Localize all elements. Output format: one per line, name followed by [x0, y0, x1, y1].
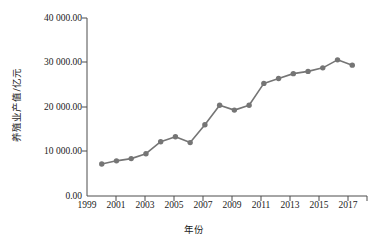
- data-point: [143, 151, 148, 156]
- data-point: [276, 76, 281, 81]
- data-point: [350, 62, 355, 67]
- data-point: [232, 107, 237, 112]
- data-point: [217, 103, 222, 108]
- data-point: [305, 69, 310, 74]
- chart-figure: 养殖业产值/亿元 40 000.00 30 000.00 20 000.00 1…: [0, 0, 387, 252]
- data-point: [335, 57, 340, 62]
- data-point: [158, 139, 163, 144]
- data-point: [246, 103, 251, 108]
- x-axis-ticks: [116, 196, 367, 201]
- plot-area: [0, 0, 387, 252]
- data-markers-series-1: [99, 57, 355, 167]
- data-line-series-1: [102, 60, 353, 164]
- data-point: [320, 65, 325, 70]
- data-point: [291, 71, 296, 76]
- data-point: [187, 140, 192, 145]
- data-point: [261, 81, 266, 86]
- data-point: [99, 161, 104, 166]
- y-axis-ticks: [82, 18, 87, 151]
- data-point: [114, 158, 119, 163]
- data-point: [129, 156, 134, 161]
- data-point: [173, 134, 178, 139]
- data-point: [202, 122, 207, 127]
